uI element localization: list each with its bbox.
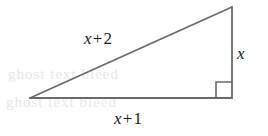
base-leg-label: x+1 — [114, 109, 142, 129]
hypotenuse-operator: + — [92, 29, 104, 48]
right-triangle-figure: ghost text bleed ghost text bleed x+2 x … — [0, 0, 268, 136]
right-angle-marker-icon — [216, 82, 232, 98]
vertical-leg-variable: x — [237, 44, 245, 63]
hypotenuse-label: x+2 — [84, 29, 112, 49]
base-leg-variable: x — [114, 109, 122, 128]
base-leg-constant: 1 — [134, 109, 143, 128]
hypotenuse-constant: 2 — [104, 29, 113, 48]
hypotenuse-variable: x — [84, 29, 92, 48]
base-leg-operator: + — [122, 109, 134, 128]
vertical-leg-label: x — [237, 44, 245, 64]
hypotenuse-line — [30, 7, 232, 98]
